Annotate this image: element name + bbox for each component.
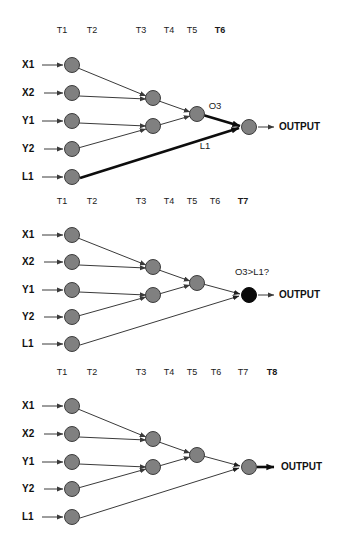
node-input-y1 (65, 455, 80, 470)
tick-label-t5: T5 (187, 25, 198, 35)
annotation-o3: O3 (209, 100, 222, 111)
panel-t6: T1 T2 T3 T4 T5 T6 (22, 25, 320, 185)
input-arrows-t6 (42, 65, 63, 177)
tick-label-t8: T8 (267, 367, 278, 377)
tick-label-t2: T2 (87, 196, 98, 206)
node-input-x1 (65, 228, 80, 243)
node-hidden-lower (146, 288, 161, 303)
node-hidden-lower (146, 460, 161, 475)
tick-label-t1: T1 (57, 25, 68, 35)
input-label-y2: Y2 (22, 483, 35, 494)
input-label-x1: X1 (22, 229, 35, 240)
diagram-canvas: T1 T2 T3 T4 T5 T6 (0, 0, 342, 539)
timeline-t7: T1 T2 T3 T4 T5 T6 T7 (57, 196, 249, 206)
tick-label-t1: T1 (57, 196, 68, 206)
tick-label-t3: T3 (136, 25, 147, 35)
node-output-active (242, 288, 257, 303)
node-input-y1 (65, 283, 80, 298)
network-diagram-figure: T1 T2 T3 T4 T5 T6 (0, 0, 342, 539)
tick-label-t6: T6 (215, 25, 226, 35)
node-input-l1 (65, 337, 80, 352)
tick-label-t3: T3 (136, 196, 147, 206)
node-input-y1 (65, 114, 80, 129)
node-input-x1 (65, 399, 80, 414)
output-label-t8: OUTPUT (281, 461, 322, 472)
node-hidden-upper (146, 260, 161, 275)
tick-label-t2: T2 (87, 25, 98, 35)
annotation-l1: L1 (200, 140, 211, 151)
input-label-x2: X2 (22, 256, 35, 267)
input-label-y1: Y1 (22, 284, 35, 295)
panel-t8: T1 T2 T3 T4 T5 T6 T7 T8 (22, 367, 322, 525)
node-merge (190, 448, 205, 463)
node-input-x2 (65, 86, 80, 101)
tick-label-t4: T4 (164, 25, 175, 35)
tick-label-t5: T5 (187, 367, 198, 377)
node-input-y2 (65, 142, 80, 157)
nodes-t8 (65, 399, 257, 525)
input-label-l1: L1 (22, 338, 34, 349)
tick-label-t2: T2 (87, 367, 98, 377)
output-label-t6: OUTPUT (279, 121, 320, 132)
node-merge (190, 107, 205, 122)
input-label-x1: X1 (22, 400, 35, 411)
nodes-t7 (65, 228, 257, 352)
edge-l1-to-output (80, 128, 239, 178)
input-label-x2: X2 (22, 428, 35, 439)
input-arrows-t8 (42, 406, 63, 517)
input-label-y1: Y1 (22, 456, 35, 467)
edge-l1-to-output (80, 296, 239, 345)
node-output (242, 460, 257, 475)
input-label-x2: X2 (22, 87, 35, 98)
tick-label-t6: T6 (210, 196, 221, 206)
tick-label-t6: T6 (211, 367, 222, 377)
annotation-comparison: O3>L1? (235, 266, 269, 277)
node-merge (190, 276, 205, 291)
edge-o3-to-output (203, 115, 240, 126)
node-input-x1 (65, 58, 80, 73)
tick-label-t7: T7 (238, 196, 249, 206)
node-input-x2 (65, 427, 80, 442)
edge-l1-to-output (80, 468, 239, 518)
input-label-y2: Y2 (22, 311, 35, 322)
edge-merge-to-output (203, 284, 240, 294)
input-label-y1: Y1 (22, 115, 35, 126)
node-input-l1 (65, 170, 80, 185)
edges-t6 (78, 68, 190, 148)
node-input-y2 (65, 482, 80, 497)
edge-merge-to-output (203, 456, 240, 466)
tick-label-t1: T1 (57, 367, 68, 377)
node-output (242, 120, 257, 135)
tick-label-t4: T4 (164, 367, 175, 377)
input-label-x1: X1 (22, 59, 35, 70)
node-hidden-upper (146, 91, 161, 106)
panel-t7: T1 T2 T3 T4 T5 T6 T7 (22, 196, 320, 352)
node-input-y2 (65, 310, 80, 325)
node-input-x2 (65, 255, 80, 270)
node-input-l1 (65, 510, 80, 525)
timeline-t6: T1 T2 T3 T4 T5 T6 (57, 25, 226, 35)
node-hidden-upper (146, 432, 161, 447)
input-label-y2: Y2 (22, 143, 35, 154)
tick-label-t7: T7 (238, 367, 249, 377)
input-arrows-t7 (42, 235, 63, 344)
timeline-t8: T1 T2 T3 T4 T5 T6 T7 T8 (57, 367, 278, 377)
input-label-l1: L1 (22, 171, 34, 182)
node-hidden-lower (146, 119, 161, 134)
input-label-l1: L1 (22, 511, 34, 522)
tick-label-t5: T5 (187, 196, 198, 206)
tick-label-t3: T3 (136, 367, 147, 377)
output-label-t7: OUTPUT (279, 289, 320, 300)
tick-label-t4: T4 (164, 196, 175, 206)
